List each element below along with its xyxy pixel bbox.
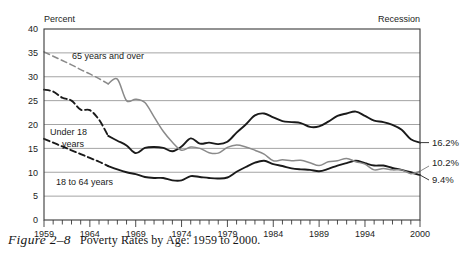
figure-number: Figure 2–8 [8,232,71,248]
leader-line-65plus [420,166,429,171]
y-tick-label-35: 35 [28,48,38,58]
y-tick-label-25: 25 [28,96,38,106]
y-tick-label-40: 40 [28,24,38,34]
figure-caption: Figure 2–8 Poverty Rates by Age: 1959 to… [8,232,468,248]
y-axis-tick-labels: 0510152025303540 [28,24,38,225]
figure-title: Poverty Rates by Age: 1959 to 2000. [80,233,261,248]
y-tick-label-20: 20 [28,120,38,130]
end-value-labels: 16.2% 10.2% 9.4% [420,137,459,185]
x-axis-ticks [44,220,420,227]
annotation-under-18-line2: years [62,139,85,149]
y-tick-label-15: 15 [28,144,38,154]
poverty-rates-line-chart: 0510152025303540 19591964196919741979198… [0,0,472,258]
recession-note: Recession [378,14,420,24]
y-axis-title: Percent [44,14,76,24]
end-label-18to64: 9.4% [432,174,454,185]
y-tick-label-0: 0 [33,215,38,225]
figure-container: 0510152025303540 19591964196919741979198… [0,0,472,258]
end-label-65plus: 10.2% [432,157,459,168]
leader-line-18to64 [420,175,429,180]
annotation-under-18-line1: Under 18 [50,127,87,137]
y-tick-label-10: 10 [28,168,38,178]
annotation-18-to-64-years: 18 to 64 years [56,177,114,187]
y-tick-label-30: 30 [28,72,38,82]
y-tick-label-5: 5 [33,191,38,201]
end-label-under18: 16.2% [432,137,459,148]
annotation-65-years-and-over: 65 years and over [72,51,144,61]
